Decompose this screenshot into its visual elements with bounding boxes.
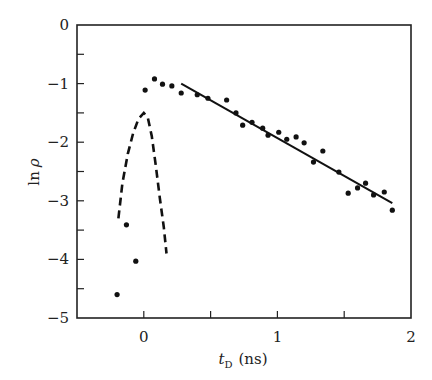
data-point <box>124 222 129 227</box>
data-point <box>265 133 270 138</box>
data-point <box>355 185 360 190</box>
data-point <box>276 130 281 135</box>
data-point <box>195 92 200 97</box>
data-point <box>143 87 148 92</box>
data-point <box>284 137 289 142</box>
x-tick-label: 2 <box>406 328 416 346</box>
fit-line-path <box>181 84 392 204</box>
data-point <box>294 134 299 139</box>
data-point <box>382 189 387 194</box>
axis-ticks <box>77 54 344 318</box>
data-points <box>114 76 394 297</box>
x-tick-label: 1 <box>273 328 283 346</box>
y-tick-label: 0 <box>59 16 69 34</box>
data-point <box>179 90 184 95</box>
data-point <box>320 148 325 153</box>
data-point <box>160 82 165 87</box>
plot-frame <box>77 25 411 318</box>
data-point <box>233 110 238 115</box>
data-point <box>346 191 351 196</box>
dashed-pulse-curve <box>118 113 166 254</box>
y-tick-label: −4 <box>47 250 69 268</box>
y-tick-label: −2 <box>47 133 69 151</box>
data-point <box>336 169 341 174</box>
data-point <box>240 123 245 128</box>
data-point <box>371 192 376 197</box>
plot-border <box>77 25 411 318</box>
data-point <box>133 259 138 264</box>
data-point <box>260 126 265 131</box>
tick-labels: 0120−1−2−3−4−5 <box>47 16 416 346</box>
data-point <box>249 120 254 125</box>
dashed-curve-path <box>118 113 166 254</box>
data-point <box>363 181 368 186</box>
data-point <box>114 292 119 297</box>
data-point <box>205 96 210 101</box>
y-tick-label: −1 <box>47 75 69 93</box>
data-point <box>311 160 316 165</box>
x-axis-label: tD(ns) <box>218 350 267 370</box>
chart: 0120−1−2−3−4−5 tD(ns) lnρ <box>0 0 432 380</box>
data-point <box>224 97 229 102</box>
y-axis-label: lnρ <box>25 158 43 185</box>
y-tick-label: −5 <box>47 309 69 327</box>
data-point <box>152 76 157 81</box>
data-point <box>169 83 174 88</box>
x-tick-label: 0 <box>139 328 149 346</box>
y-tick-label: −3 <box>47 192 69 210</box>
data-point <box>390 208 395 213</box>
fit-line <box>181 84 392 204</box>
data-point <box>302 140 307 145</box>
